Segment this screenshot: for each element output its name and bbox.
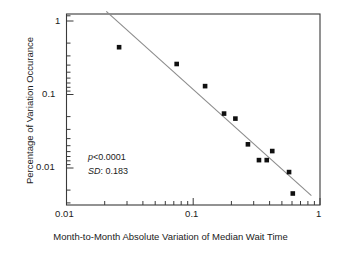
y-tick-label-2: 0.1 [42, 88, 56, 99]
data-point [203, 84, 208, 89]
x-tick-label-2: 0.1 [185, 208, 199, 219]
annotation-p-value: p<0.0001 [88, 152, 126, 162]
x-tick-label-1: 0.01 [55, 208, 74, 219]
regression-line [106, 11, 311, 195]
y-axis-title: Percentage of Variation Occurance [24, 6, 35, 216]
plot-frame [67, 14, 321, 205]
scatter-plot-canvas [0, 0, 341, 256]
y-axis-ticks [67, 16, 74, 203]
y-tick-label-3: 0.01 [36, 161, 55, 172]
annotation-p-text: <0.0001 [93, 152, 126, 162]
data-point [270, 149, 275, 154]
data-point [264, 158, 269, 163]
annotation-sd-value: SD: 0.183 [88, 166, 128, 176]
x-axis-ticks [67, 198, 321, 205]
x-axis-title: Month-to-Month Absolute Variation of Med… [0, 231, 341, 242]
x-tick-label-3: 1 [316, 208, 321, 219]
y-tick-label-1: 1 [55, 15, 60, 26]
data-point [246, 142, 251, 147]
annotation-sd-text: : 0.183 [101, 166, 129, 176]
data-point [287, 170, 292, 175]
data-point [257, 158, 262, 163]
data-point [290, 191, 295, 196]
data-point [233, 116, 238, 121]
annotation-sd-symbol: SD [88, 166, 101, 176]
data-point [117, 45, 122, 50]
chart-figure: 0.01 0.1 1 1 0.1 0.01 Month-to-Month Abs… [0, 0, 341, 256]
data-point-markers [117, 45, 295, 196]
data-point [222, 111, 227, 116]
data-point [174, 62, 179, 67]
